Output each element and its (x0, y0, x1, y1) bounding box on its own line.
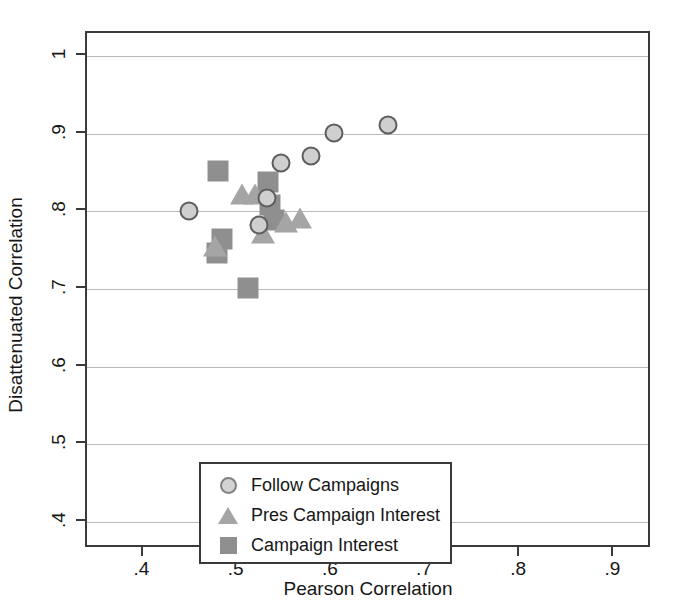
x-axis-tick (517, 547, 519, 556)
x-axis-tick (611, 547, 613, 556)
data-point-circle (257, 189, 276, 208)
y-axis-tick-label: .7 (48, 279, 70, 295)
gridline-horizontal (87, 367, 648, 368)
gridline-horizontal (87, 289, 648, 290)
data-point-circle (250, 216, 269, 235)
y-axis-tick (76, 519, 85, 521)
y-axis-tick-label: .8 (48, 202, 70, 218)
y-axis-tick (76, 364, 85, 366)
x-axis-tick-label: .4 (134, 558, 150, 580)
data-point-circle (324, 124, 343, 143)
legend-label: Follow Campaigns (251, 475, 399, 496)
gridline-horizontal (87, 56, 648, 57)
gridline-horizontal (87, 211, 648, 212)
legend-item-pres-campaign-interest: Pres Campaign Interest (201, 500, 450, 530)
x-axis-tick-label: .9 (604, 558, 620, 580)
scatter-plot-figure: Disattenuated Correlation Pearson Correl… (0, 0, 678, 610)
square-marker-icon (213, 537, 243, 554)
data-point-circle (179, 201, 198, 220)
x-axis-tick-label: .8 (510, 558, 526, 580)
x-axis-tick (141, 547, 143, 556)
data-point-triangle (203, 236, 227, 257)
data-point-circle (302, 147, 321, 166)
legend-label: Pres Campaign Interest (251, 505, 440, 526)
plot-area: Follow Campaigns Pres Campaign Interest … (85, 31, 650, 547)
data-point-square (207, 161, 228, 182)
gridline-horizontal (87, 444, 648, 445)
y-axis-tick-label: .6 (48, 357, 70, 373)
legend-item-follow-campaigns: Follow Campaigns (201, 470, 450, 500)
y-axis-tick (76, 286, 85, 288)
data-point-triangle (288, 208, 312, 229)
chart-legend: Follow Campaigns Pres Campaign Interest … (199, 462, 452, 564)
y-axis-tick (76, 131, 85, 133)
y-axis-tick-label: .5 (48, 434, 70, 450)
y-axis-tick-label: .9 (48, 124, 70, 140)
legend-label: Campaign Interest (251, 535, 398, 556)
y-axis-tick-label: .4 (48, 512, 70, 528)
y-axis-title: Disattenuated Correlation (5, 197, 27, 412)
y-axis-tick (76, 53, 85, 55)
y-axis-tick (76, 441, 85, 443)
data-point-square (238, 278, 259, 299)
y-axis-tick-label: 1 (48, 49, 70, 60)
gridline-horizontal (87, 134, 648, 135)
triangle-marker-icon (213, 507, 243, 524)
x-axis-title: Pearson Correlation (284, 578, 453, 600)
y-axis-tick (76, 208, 85, 210)
data-point-circle (271, 154, 290, 173)
circle-marker-icon (213, 477, 243, 494)
legend-item-campaign-interest: Campaign Interest (201, 530, 450, 560)
data-point-circle (379, 116, 398, 135)
